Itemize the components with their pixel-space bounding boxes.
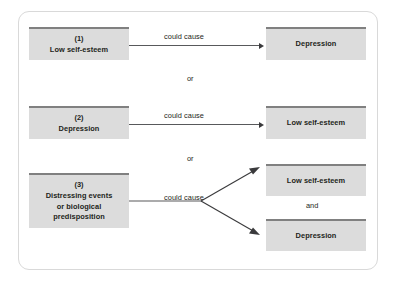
arrow-line-1 (129, 45, 260, 46)
diagram-panel: (1) Low self-esteem could cause Depressi… (18, 11, 378, 270)
arrow-label-2: could cause (164, 111, 204, 120)
cause-box-1-number: (1) (74, 34, 83, 45)
effect-box-3-low-self-esteem-label: Low self-esteem (287, 176, 345, 187)
effect-box-2-label: Low self-esteem (287, 118, 345, 129)
cause-box-2-label: Depression (59, 124, 100, 135)
effect-box-3-depression: Depression (266, 219, 366, 251)
connector-or-1: or (187, 74, 194, 83)
effect-box-1-label: Depression (296, 39, 337, 50)
cause-box-3-label-line-2: or biological (57, 202, 102, 213)
arrow-line-2 (129, 124, 260, 125)
cause-box-1-label: Low self-esteem (50, 45, 108, 56)
connector-and-1: and (306, 201, 318, 210)
cause-box-3-label-line-1: Distressing events (46, 191, 113, 202)
cause-box-2: (2) Depression (29, 106, 129, 139)
arrow-label-3: could cause (164, 193, 204, 202)
cause-box-2-number: (2) (74, 113, 83, 124)
branching-arrows-3 (129, 162, 269, 252)
arrow-head-1-icon (259, 43, 264, 49)
arrow-head-2-icon (259, 122, 264, 128)
cause-box-3: (3) Distressing events or biological pre… (29, 173, 129, 228)
cause-box-3-number: (3) (74, 180, 83, 191)
effect-box-3-depression-label: Depression (296, 231, 337, 242)
cause-box-1: (1) Low self-esteem (29, 27, 129, 60)
effect-box-1-depression: Depression (266, 27, 366, 60)
cause-box-3-label-line-3: predisposition (53, 212, 105, 223)
effect-box-3-low-self-esteem: Low self-esteem (266, 164, 366, 196)
arrow-label-1: could cause (164, 32, 204, 41)
effect-box-2-low-self-esteem: Low self-esteem (266, 106, 366, 139)
